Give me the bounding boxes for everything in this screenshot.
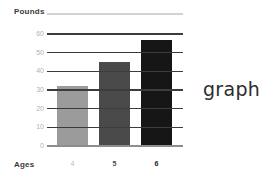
gridline-10 (47, 127, 183, 128)
y-tick-label-50: 50 (18, 49, 44, 56)
y-tick-label-10: 10 (18, 123, 44, 130)
bar-4 (57, 86, 88, 146)
y-tick-label-40: 40 (18, 67, 44, 74)
gridline-60 (47, 33, 183, 34)
gridline-50 (47, 52, 183, 53)
y-tick-label-30: 30 (18, 86, 44, 93)
y-tick-label-20: 20 (18, 105, 44, 112)
y-tick-label-0: 0 (18, 142, 44, 149)
graph-caption: graph (203, 78, 260, 100)
bar-6 (141, 40, 172, 146)
gridline-40 (47, 71, 183, 72)
x-tick-label-5: 5 (99, 160, 130, 167)
x-axis-title: Ages (14, 160, 34, 169)
gridline-30 (47, 89, 183, 90)
x-tick-label-6: 6 (141, 160, 172, 167)
y-tick-label-60: 60 (18, 30, 44, 37)
axis-baseline (47, 145, 183, 146)
bar-5 (99, 62, 130, 146)
chart-container: Pounds 0102030405060456 Ages graph (0, 0, 269, 184)
x-tick-label-4: 4 (57, 160, 88, 167)
gridline-20 (47, 108, 183, 109)
